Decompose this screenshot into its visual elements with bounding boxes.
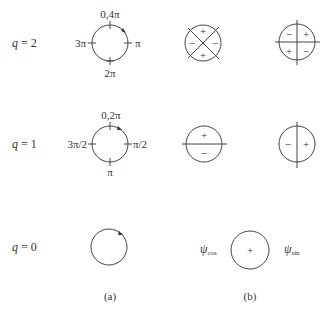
orbital-uniform: ψcos + ψsin xyxy=(200,231,300,269)
q-value: = 2 xyxy=(21,36,37,50)
caption-b: (b) xyxy=(244,290,257,303)
svg-text:q = 0: q = 0 xyxy=(12,240,37,254)
caption-a: (a) xyxy=(104,290,117,303)
svg-text:ψsin: ψsin xyxy=(284,242,300,257)
tick-top: 0,2π xyxy=(101,109,121,121)
sign-left: − xyxy=(285,138,291,150)
sign-bottom: + xyxy=(200,49,206,61)
sign-br: − xyxy=(303,45,309,57)
sign-top: + xyxy=(201,129,207,141)
tick-left: 3π xyxy=(75,37,87,49)
orbital-cross-split: − + + − xyxy=(275,20,320,65)
phase-circle-q0 xyxy=(91,229,127,265)
q-value: = 0 xyxy=(21,240,37,254)
sign-right: − xyxy=(212,37,218,49)
q-value: = 1 xyxy=(21,137,37,151)
tick-right: π/2 xyxy=(133,138,147,150)
row-q2: q = 2 0,4π π 2π 3π + + − − xyxy=(12,8,320,79)
orbital-vertical-split: − + xyxy=(279,122,315,168)
row-q0: q = 0 ψcos + ψsin xyxy=(12,229,300,269)
sign-tr: + xyxy=(303,28,309,40)
tick-bottom: 2π xyxy=(104,67,116,79)
q-symbol: q xyxy=(12,36,18,50)
tick-right: π xyxy=(135,37,141,49)
orbital-x-split: + + − − xyxy=(185,25,221,61)
tick-bottom: π xyxy=(107,166,113,178)
sign-bottom: − xyxy=(201,147,207,159)
sign-left: − xyxy=(189,37,195,49)
tick-top: 0,4π xyxy=(100,8,120,20)
q-symbol: q xyxy=(12,240,18,254)
orbital-horizontal-split: + − xyxy=(182,126,227,162)
svg-text:ψcos: ψcos xyxy=(200,242,217,257)
phase-circle-q2: 0,4π π 2π 3π xyxy=(75,8,141,79)
svg-text:q = 2: q = 2 xyxy=(12,36,37,50)
sign-right: + xyxy=(303,138,309,150)
orbital-diagram: q = 2 0,4π π 2π 3π + + − − xyxy=(0,0,322,314)
tick-left: 3π/2 xyxy=(67,138,87,150)
svg-text:q = 1: q = 1 xyxy=(12,137,37,151)
sign-center: + xyxy=(247,244,253,256)
row-q1: q = 1 0,2π π/2 π 3π/2 + − − + xyxy=(12,109,315,178)
sign-bl: + xyxy=(286,45,292,57)
sign-tl: − xyxy=(286,28,292,40)
q-symbol: q xyxy=(12,137,18,151)
phase-circle-q1: 0,2π π/2 π 3π/2 xyxy=(67,109,147,178)
sign-top: + xyxy=(200,25,206,37)
arrow-icon xyxy=(117,126,122,130)
